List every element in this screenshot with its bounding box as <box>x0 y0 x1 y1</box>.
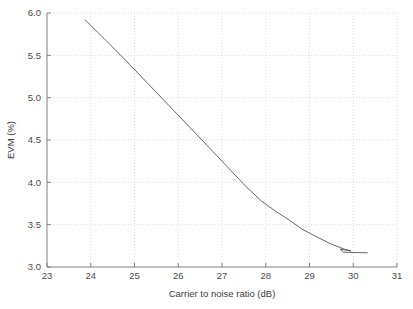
x-tick-label: 23 <box>42 270 53 281</box>
y-tick-label: 4.0 <box>28 177 41 188</box>
y-tick-label: 3.0 <box>28 261 41 272</box>
y-tick-label: 4.5 <box>28 134 41 145</box>
y-tick-label: 3.5 <box>28 219 41 230</box>
x-axis-title: Carrier to noise ratio (dB) <box>169 288 276 299</box>
x-tick-label: 29 <box>304 270 315 281</box>
x-tick-label: 27 <box>217 270 228 281</box>
x-tick-label: 30 <box>348 270 359 281</box>
x-tick-label: 25 <box>129 270 140 281</box>
y-tick-label: 5.0 <box>28 92 41 103</box>
chart-figure: 232425262728293031 3.03.54.04.55.05.56.0… <box>0 0 413 309</box>
x-tick-label: 28 <box>260 270 271 281</box>
x-tick-label: 31 <box>392 270 403 281</box>
chart-background <box>0 0 413 309</box>
y-axis-title: EVM (%) <box>5 121 16 159</box>
x-tick-label: 26 <box>173 270 184 281</box>
x-tick-label: 24 <box>85 270 96 281</box>
line-chart-svg: 232425262728293031 3.03.54.04.55.05.56.0… <box>0 0 413 309</box>
y-tick-label: 6.0 <box>28 7 41 18</box>
y-tick-label: 5.5 <box>28 50 41 61</box>
x-tick-labels: 232425262728293031 <box>42 270 403 281</box>
